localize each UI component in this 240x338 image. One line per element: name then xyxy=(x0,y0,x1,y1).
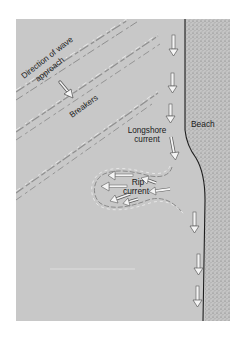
beach-label: Beach xyxy=(191,119,215,129)
rip-current-diagram: Direction of wave approach Breakers Beac… xyxy=(0,0,240,338)
water-highlight xyxy=(50,268,135,270)
longshore-current-label: Longshore xyxy=(128,126,167,135)
longshore-current-label-2: current xyxy=(134,135,160,144)
rip-current-label-2: current xyxy=(123,186,150,196)
